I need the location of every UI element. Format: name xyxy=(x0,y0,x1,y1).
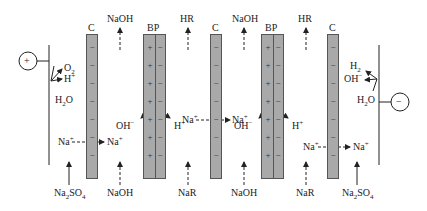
minus-sign: − xyxy=(155,79,165,88)
bp1-h-label: H+ xyxy=(174,121,185,131)
input-naoh-1: NaOH xyxy=(107,188,133,198)
minus-sign: − xyxy=(87,79,97,88)
minus-sign: − xyxy=(328,97,338,106)
cathode-minus-sign: − xyxy=(396,97,402,107)
minus-sign: − xyxy=(273,133,283,142)
membrane-label-c2: C xyxy=(212,23,219,33)
input-na2so4-right: Na2SO4 xyxy=(342,188,373,198)
cathode-h2-label: H2 xyxy=(350,61,361,71)
bp2-h-label: H+ xyxy=(292,121,303,131)
membrane-label-c1: C xyxy=(88,23,95,33)
anode-h2o-label: H2O xyxy=(55,95,73,105)
na-ion-label: Na+ xyxy=(303,142,319,152)
na-ion-label: Na+ xyxy=(58,137,74,147)
minus-sign: − xyxy=(328,115,338,124)
minus-sign: − xyxy=(87,115,97,124)
minus-sign: − xyxy=(87,61,97,70)
membrane-c2: − − − − − − − xyxy=(210,34,222,179)
output-hr-1: HR xyxy=(180,14,194,24)
minus-sign: − xyxy=(211,79,221,88)
plus-sign: + xyxy=(145,79,155,88)
minus-sign: − xyxy=(155,43,165,52)
minus-sign: − xyxy=(273,61,283,70)
cathode-oh-label: OH− xyxy=(344,74,362,84)
membrane-c1: − − − − − − − xyxy=(86,34,98,179)
anode-hplus-label: H+ xyxy=(64,74,75,84)
na-ion-label: Na+ xyxy=(107,137,123,147)
anode-plus-sign: + xyxy=(24,56,30,66)
plus-sign: + xyxy=(145,133,155,142)
minus-sign: − xyxy=(328,79,338,88)
minus-sign: − xyxy=(87,43,97,52)
minus-sign: − xyxy=(87,133,97,142)
plus-sign: + xyxy=(263,151,273,160)
cathode-electrode xyxy=(379,45,409,165)
minus-sign: − xyxy=(155,133,165,142)
membrane-label-bp1: BP xyxy=(147,23,159,33)
minus-sign: − xyxy=(155,151,165,160)
anode-reaction-arrows xyxy=(51,66,62,81)
bp1-oh-label: OH− xyxy=(116,121,134,131)
minus-sign: − xyxy=(87,151,97,160)
plus-sign: + xyxy=(145,97,155,106)
cathode-reaction-arrows xyxy=(365,71,377,91)
input-naoh-2: NaOH xyxy=(231,188,257,198)
membrane-bp1: + − + − + − + − + − + − + − xyxy=(143,34,166,179)
minus-sign: − xyxy=(211,133,221,142)
plus-sign: + xyxy=(145,151,155,160)
plus-sign: + xyxy=(263,43,273,52)
plus-sign: + xyxy=(263,61,273,70)
minus-sign: − xyxy=(155,115,165,124)
bp2-oh-label: OH− xyxy=(234,121,252,131)
minus-sign: − xyxy=(328,43,338,52)
minus-sign: − xyxy=(155,61,165,70)
plus-sign: + xyxy=(145,115,155,124)
input-na2so4-left: Na2SO4 xyxy=(54,188,85,198)
minus-sign: − xyxy=(273,79,283,88)
output-naoh-1: NaOH xyxy=(107,14,133,24)
input-nar-2: NaR xyxy=(296,188,314,198)
minus-sign: − xyxy=(211,43,221,52)
input-nar-1: NaR xyxy=(178,188,196,198)
minus-sign: − xyxy=(328,61,338,70)
minus-sign: − xyxy=(273,115,283,124)
membrane-bp2: + − + − + − + − + − + − + − xyxy=(261,34,284,179)
minus-sign: − xyxy=(211,151,221,160)
minus-sign: − xyxy=(328,133,338,142)
na-ion-label: Na+ xyxy=(353,142,369,152)
plus-sign: + xyxy=(145,61,155,70)
output-naoh-2: NaOH xyxy=(232,14,258,24)
plus-sign: + xyxy=(263,133,273,142)
cathode-h2o-label: H2O xyxy=(357,95,375,105)
output-hr-2: HR xyxy=(298,14,312,24)
minus-sign: − xyxy=(211,61,221,70)
plus-sign: + xyxy=(263,115,273,124)
electrodialysis-diagram: + − − − − − − − − + − + − + − + − + − + … xyxy=(0,0,427,211)
plus-sign: + xyxy=(263,97,273,106)
minus-sign: − xyxy=(328,151,338,160)
minus-sign: − xyxy=(273,97,283,106)
minus-sign: − xyxy=(87,97,97,106)
membrane-c3: − − − − − − − xyxy=(327,34,339,179)
minus-sign: − xyxy=(155,97,165,106)
minus-sign: − xyxy=(273,151,283,160)
minus-sign: − xyxy=(211,97,221,106)
membrane-label-bp2: BP xyxy=(265,23,277,33)
plus-sign: + xyxy=(263,79,273,88)
plus-sign: + xyxy=(145,43,155,52)
minus-sign: − xyxy=(211,115,221,124)
membrane-label-c3: C xyxy=(329,23,336,33)
minus-sign: − xyxy=(273,43,283,52)
